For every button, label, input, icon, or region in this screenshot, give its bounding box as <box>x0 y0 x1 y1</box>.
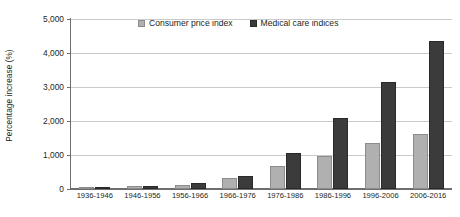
bar-group: 1966-1976 <box>214 19 262 189</box>
x-axis-tick-label: 1976-1986 <box>267 191 303 200</box>
bar-group: 1936-1946 <box>71 19 119 189</box>
bar-cpi <box>317 156 332 189</box>
bar-medical <box>381 82 396 189</box>
y-axis-title-label: Percentage increase (%) <box>5 49 14 141</box>
bar-medical <box>95 187 110 189</box>
bar-medical <box>143 186 158 189</box>
x-axis-tick-label: 1966-1976 <box>220 191 256 200</box>
bar-cpi <box>222 178 237 189</box>
y-axis-tick-label: 0 <box>59 184 64 194</box>
bar-cpi <box>270 166 285 189</box>
bar-group: 1996-2006 <box>357 19 405 189</box>
y-axis-tick-label: 4,000 <box>43 48 64 58</box>
x-axis-tick-label: 1946-1956 <box>124 191 160 200</box>
x-axis-tick-label: 1956-1966 <box>172 191 208 200</box>
bar-cpi <box>413 134 428 189</box>
bar-medical <box>191 183 206 189</box>
y-axis-tick-label: 3,000 <box>43 82 64 92</box>
y-axis-tick <box>67 189 71 190</box>
y-axis-tick-label: 2,000 <box>43 116 64 126</box>
gridline <box>71 189 452 190</box>
bar-cpi <box>79 187 94 189</box>
bar-chart: Percentage increase (%) Consumer price i… <box>0 0 460 217</box>
x-axis-tick-label: 2006-2016 <box>410 191 446 200</box>
bar-medical <box>429 41 444 189</box>
plot-area: 5,0004,0003,0002,0001,0000 1936-19461946… <box>71 19 452 189</box>
bar-cpi <box>127 186 142 189</box>
bar-group: 2006-2016 <box>404 19 452 189</box>
bar-medical <box>333 118 348 189</box>
bar-medical <box>238 176 253 189</box>
y-axis-tick-label: 1,000 <box>43 150 64 160</box>
bar-group: 1956-1966 <box>166 19 214 189</box>
x-axis-tick-label: 1996-2006 <box>362 191 398 200</box>
bar-medical <box>286 153 301 189</box>
x-axis-tick-label: 1936-1946 <box>77 191 113 200</box>
bar-group: 1946-1956 <box>119 19 167 189</box>
bar-cpi <box>175 185 190 189</box>
bar-cpi <box>365 143 380 189</box>
bar-groups: 1936-19461946-19561956-19661966-19761976… <box>71 19 452 189</box>
bar-group: 1986-1996 <box>309 19 357 189</box>
x-axis-tick-label: 1986-1996 <box>315 191 351 200</box>
y-axis-title: Percentage increase (%) <box>0 0 18 190</box>
y-axis-tick-label: 5,000 <box>43 14 64 24</box>
bar-group: 1976-1986 <box>262 19 310 189</box>
